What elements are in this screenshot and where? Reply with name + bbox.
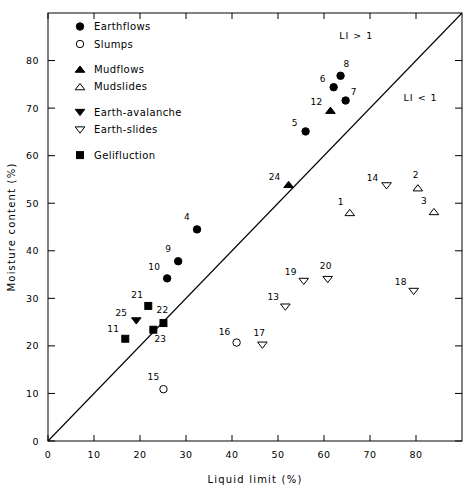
data-point-10 xyxy=(163,275,170,282)
y-tick-label: 60 xyxy=(26,150,39,161)
data-point-5 xyxy=(302,128,309,135)
legend-label-mudslides: Mudslides xyxy=(94,81,147,92)
data-point-label-2: 2 xyxy=(413,170,419,180)
data-point-label-23: 23 xyxy=(154,334,166,344)
data-point-4 xyxy=(193,226,200,233)
data-point-11 xyxy=(122,335,129,342)
x-tick-label: 50 xyxy=(271,449,284,460)
y-tick-label: 30 xyxy=(26,293,39,304)
legend-marker-earth-avalanche xyxy=(75,109,85,115)
data-point-label-14: 14 xyxy=(367,173,379,183)
data-point-label-8: 8 xyxy=(344,59,350,69)
y-tick-label: 70 xyxy=(26,103,39,114)
data-point-label-11: 11 xyxy=(107,324,119,334)
data-point-label-16: 16 xyxy=(219,327,231,337)
data-point-label-20: 20 xyxy=(320,261,332,271)
data-point-6 xyxy=(330,83,337,90)
data-point-15 xyxy=(160,385,167,392)
data-point-7 xyxy=(342,97,349,104)
legend-label-gelifluction: Gelifluction xyxy=(94,150,156,161)
data-point-25 xyxy=(132,318,142,324)
data-point-8 xyxy=(337,72,344,79)
data-point-24 xyxy=(284,181,294,187)
y-tick-label: 20 xyxy=(26,340,39,351)
legend-label-earthflows: Earthflows xyxy=(94,21,151,32)
data-point-label-19: 19 xyxy=(285,267,297,277)
x-tick-label: 40 xyxy=(225,449,238,460)
data-point-label-13: 13 xyxy=(267,292,279,302)
data-point-22 xyxy=(160,320,167,327)
data-point-label-10: 10 xyxy=(148,262,160,272)
data-point-19 xyxy=(299,278,309,284)
x-tick-label: 30 xyxy=(179,449,192,460)
data-point-9 xyxy=(174,258,181,265)
liquidity-index-unity-line xyxy=(48,13,462,441)
data-point-label-3: 3 xyxy=(421,196,427,206)
data-point-label-7: 7 xyxy=(351,87,357,97)
y-tick-label: 0 xyxy=(32,436,39,447)
data-point-label-1: 1 xyxy=(338,197,344,207)
x-axis-title: Liquid limit (%) xyxy=(207,474,302,485)
data-point-label-5: 5 xyxy=(292,118,298,128)
legend-label-earth-slides: Earth-slides xyxy=(94,124,158,135)
data-point-23 xyxy=(150,326,157,333)
data-point-1 xyxy=(345,209,355,215)
data-point-label-21: 21 xyxy=(131,290,143,300)
scatter-plot-figure: 0102030405060708001020304050607080Liquid… xyxy=(0,0,469,488)
y-axis-title: Moisture content (%) xyxy=(6,163,17,292)
data-point-label-15: 15 xyxy=(148,372,160,382)
data-point-14 xyxy=(382,183,392,189)
reference-line-annotation: LI < 1 xyxy=(404,92,438,103)
data-point-18 xyxy=(409,288,419,294)
data-point-3 xyxy=(429,208,439,214)
legend-label-slumps: Slumps xyxy=(94,39,133,50)
x-tick-label: 70 xyxy=(363,449,376,460)
data-point-label-9: 9 xyxy=(165,244,171,254)
data-point-label-17: 17 xyxy=(253,328,265,338)
data-point-label-24: 24 xyxy=(269,172,281,182)
legend-marker-earthflows xyxy=(76,23,83,30)
data-point-label-18: 18 xyxy=(395,277,407,287)
x-tick-label: 0 xyxy=(45,449,52,460)
legend-marker-mudflows xyxy=(75,66,85,72)
data-point-13 xyxy=(281,304,291,310)
legend-marker-mudslides xyxy=(75,84,85,90)
data-point-label-4: 4 xyxy=(184,212,190,222)
x-tick-label: 60 xyxy=(317,449,330,460)
y-tick-label: 10 xyxy=(26,388,39,399)
legend-marker-gelifluction xyxy=(77,152,84,159)
plot-canvas: 0102030405060708001020304050607080Liquid… xyxy=(0,0,469,488)
legend-label-earth-avalanche: Earth-avalanche xyxy=(94,107,182,118)
data-point-2 xyxy=(413,185,423,191)
y-tick-label: 80 xyxy=(26,55,39,66)
data-point-20 xyxy=(323,276,333,282)
x-tick-label: 10 xyxy=(87,449,100,460)
data-point-16 xyxy=(233,339,240,346)
reference-line-annotation: LI > 1 xyxy=(339,30,373,41)
legend-label-mudflows: Mudflows xyxy=(94,64,144,75)
y-tick-label: 40 xyxy=(26,245,39,256)
data-point-label-6: 6 xyxy=(320,74,326,84)
data-point-21 xyxy=(145,302,152,309)
data-point-label-25: 25 xyxy=(115,308,127,318)
data-point-17 xyxy=(258,342,268,348)
data-point-label-12: 12 xyxy=(311,97,323,107)
legend-marker-earth-slides xyxy=(75,127,85,133)
x-tick-label: 20 xyxy=(133,449,146,460)
y-tick-label: 50 xyxy=(26,198,39,209)
x-tick-label: 80 xyxy=(409,449,422,460)
data-point-12 xyxy=(326,107,336,113)
legend-marker-slumps xyxy=(76,40,83,47)
data-point-label-22: 22 xyxy=(157,305,169,315)
